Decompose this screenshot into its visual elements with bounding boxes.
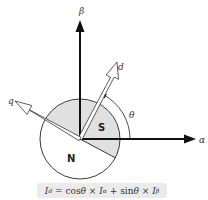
north-pole-label: N [67, 153, 75, 164]
d-label: d [118, 62, 124, 72]
park-formula: Id = cosθ × Iα + sinθ × Iβ [37, 183, 167, 198]
alpha-label: α [199, 135, 205, 145]
alpha-arrowhead-icon [184, 135, 196, 144]
formula-times-2: × [139, 186, 152, 196]
beta-arrowhead-icon [76, 20, 85, 32]
formula-times-1: × [86, 186, 99, 196]
formula-beta-sub: β [156, 187, 159, 194]
theta-label: θ [129, 110, 135, 120]
formula-plus: + sin [107, 186, 134, 196]
beta-label: β [78, 6, 84, 16]
south-pole-region [45, 100, 120, 158]
q-label: q [8, 96, 14, 106]
south-pole-label: S [98, 122, 105, 133]
park-transform-diagram: β α d q θ S N [0, 0, 208, 200]
formula-eq: = cos [52, 186, 80, 196]
